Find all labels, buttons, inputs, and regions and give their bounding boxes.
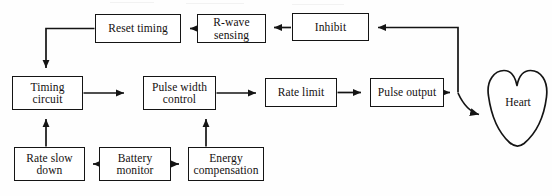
node-label: Inhibit [313, 21, 348, 33]
node-energy-compensation[interactable]: Energy compensation [188, 147, 264, 181]
node-label: R-wave sensing [211, 16, 251, 40]
node-label: Timing circuit [28, 81, 66, 105]
node-rate-limit[interactable]: Rate limit [265, 78, 337, 107]
node-label: Energy compensation [191, 152, 260, 176]
node-r-wave-sensing[interactable]: R-wave sensing [197, 14, 266, 43]
pacemaker-block-diagram: Reset timing R-wave sensing Inhibit Timi… [0, 0, 552, 196]
node-pulse-output[interactable]: Pulse output [370, 78, 444, 107]
heart-shape [488, 71, 547, 146]
node-label: Battery monitor [114, 152, 155, 176]
node-battery-monitor[interactable]: Battery monitor [99, 147, 171, 181]
node-rate-slow-down[interactable]: Rate slow down [14, 147, 85, 181]
edge-reset-to-timing [46, 29, 95, 69]
node-label: Rate limit [276, 86, 327, 98]
node-label: Rate slow down [24, 152, 75, 176]
node-reset-timing[interactable]: Reset timing [95, 14, 181, 43]
node-timing-circuit[interactable]: Timing circuit [12, 76, 83, 110]
node-inhibit[interactable]: Inhibit [292, 13, 369, 41]
node-label: Reset timing [106, 22, 170, 34]
node-label: Pulse output [376, 86, 438, 98]
heart-label: Heart [498, 96, 538, 108]
node-label: Pulse width control [150, 81, 209, 105]
edge-pulseoutput-to-heart [458, 93, 479, 115]
node-pulse-width-control[interactable]: Pulse width control [143, 76, 216, 110]
